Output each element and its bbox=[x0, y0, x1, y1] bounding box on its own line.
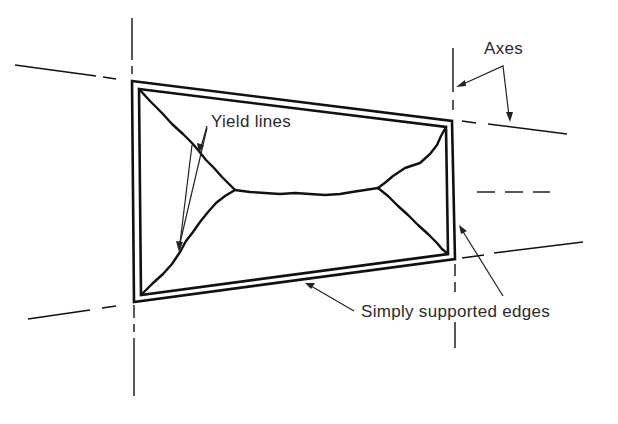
lower-axis-left bbox=[28, 310, 90, 319]
lower-axis-right-dash bbox=[462, 255, 484, 258]
yield-line-ridge bbox=[235, 188, 378, 195]
upper-axis-left-dash bbox=[103, 77, 116, 79]
lower-axis-left-dash bbox=[102, 306, 116, 308]
yield-line-bottom-right bbox=[378, 188, 448, 254]
yield-line-top-right bbox=[378, 127, 446, 188]
yield-line-top-left bbox=[139, 89, 235, 190]
yield-line-diagram: Yield lines Axes Simply supported edges bbox=[0, 0, 618, 424]
upper-axis-right-dash bbox=[462, 121, 476, 123]
edges-leader-right bbox=[462, 230, 503, 296]
yield-lines-label: Yield lines bbox=[211, 112, 291, 131]
lower-axis-right bbox=[494, 242, 583, 253]
upper-axis-left bbox=[15, 65, 96, 76]
yield-lines bbox=[139, 89, 448, 295]
axes-arrowhead-left bbox=[456, 80, 466, 87]
plate-edges bbox=[132, 81, 455, 302]
axes-label: Axes bbox=[484, 39, 523, 58]
edges-leader-left bbox=[311, 286, 354, 311]
plate-outer-edge bbox=[132, 81, 455, 302]
simply-supported-edges-label: Simply supported edges bbox=[361, 302, 550, 321]
edges-arrowhead-right bbox=[459, 225, 467, 234]
yield-line-bottom-left bbox=[141, 190, 235, 295]
yield-lines-leader-1 bbox=[201, 126, 207, 147]
axes-leader bbox=[461, 66, 509, 116]
annotations: Yield lines Axes Simply supported edges bbox=[176, 39, 550, 321]
upper-axis-right bbox=[488, 124, 567, 134]
axes-group bbox=[15, 18, 583, 396]
yield-lines-leader-2 bbox=[180, 145, 192, 243]
axes-arrowhead-down bbox=[506, 112, 513, 122]
